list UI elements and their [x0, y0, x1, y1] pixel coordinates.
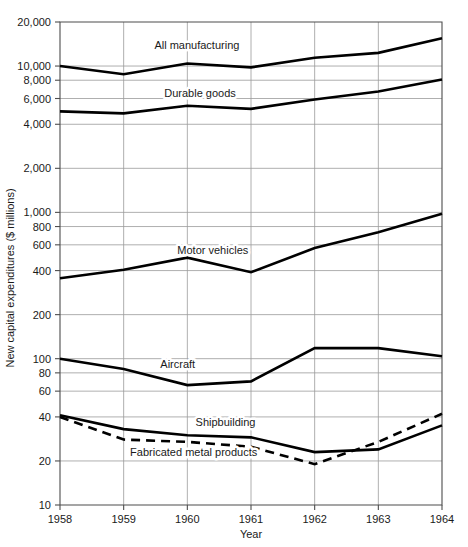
- y-tick-label: 10: [39, 499, 51, 511]
- y-tick-label: 20: [39, 455, 51, 467]
- y-axis-title: New capital expenditures ($ millions): [4, 188, 16, 367]
- x-tick-label: 1960: [175, 513, 199, 525]
- gridlines: [60, 22, 442, 505]
- y-tick-label: 800: [33, 221, 51, 233]
- y-tick-label: 8,000: [23, 74, 51, 86]
- series-label-motor-vehicles: Motor vehicles: [177, 244, 248, 256]
- x-tick-label: 1964: [430, 513, 454, 525]
- y-axis-ticks: 20,00010,0008,0006,0004,0002,0001,000800…: [17, 16, 60, 511]
- series-label-shipbuilding: Shipbuilding: [196, 416, 256, 428]
- x-tick-label: 1963: [366, 513, 390, 525]
- y-tick-label: 6,000: [23, 93, 51, 105]
- y-tick-label: 20,000: [17, 16, 51, 28]
- y-tick-label: 1,000: [23, 206, 51, 218]
- x-tick-label: 1961: [239, 513, 263, 525]
- y-tick-label: 60: [39, 385, 51, 397]
- y-tick-label: 40: [39, 411, 51, 423]
- series-label-all-manufacturing: All manufacturing: [154, 39, 239, 51]
- y-tick-label: 4,000: [23, 118, 51, 130]
- chart-container: 20,00010,0008,0006,0004,0002,0001,000800…: [0, 0, 468, 547]
- x-tick-label: 1959: [111, 513, 135, 525]
- series-label-aircraft: Aircraft: [160, 358, 195, 370]
- x-tick-label: 1958: [48, 513, 72, 525]
- y-tick-label: 200: [33, 309, 51, 321]
- series-label-durable-goods: Durable goods: [164, 87, 236, 99]
- series-labels: All manufacturingDurable goodsMotor vehi…: [130, 39, 258, 458]
- y-tick-label: 600: [33, 239, 51, 251]
- y-tick-label: 2,000: [23, 162, 51, 174]
- y-tick-label: 100: [33, 353, 51, 365]
- x-axis-title: Year: [240, 528, 263, 540]
- x-axis-ticks: 1958195919601961196219631964: [48, 505, 454, 525]
- y-tick-label: 80: [39, 367, 51, 379]
- y-tick-label: 400: [33, 265, 51, 277]
- series-label-fabricated-metal-products: Fabricated metal products: [130, 446, 258, 458]
- x-tick-label: 1962: [302, 513, 326, 525]
- y-tick-label: 10,000: [17, 60, 51, 72]
- line-chart: 20,00010,0008,0006,0004,0002,0001,000800…: [0, 0, 468, 547]
